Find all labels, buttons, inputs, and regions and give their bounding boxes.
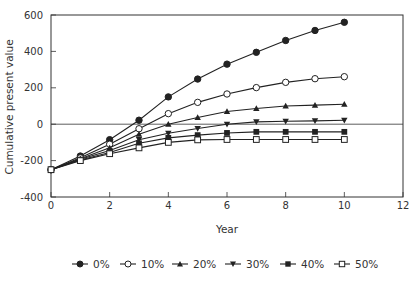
x-tick-label: 6 [224,200,230,211]
open-circle-marker [224,91,230,97]
legend-item-50pct: 50% [334,258,378,270]
legend-item-30pct: 30% [225,258,269,270]
open-circle-marker [125,261,131,267]
series-30pct [48,118,348,173]
open-square-marker [48,167,54,173]
open-square-marker [195,137,201,143]
open-circle-marker [312,76,318,82]
open-square-marker [283,137,289,143]
filled-circle-marker [224,61,230,67]
filled-circle-marker [77,261,83,267]
open-square-marker [341,137,347,143]
legend-label: 0% [93,258,110,270]
open-circle-marker [165,110,171,116]
open-square-marker [77,158,83,164]
x-tick-label: 4 [165,200,171,211]
legend-label: 40% [301,258,324,270]
open-circle-marker [282,79,288,85]
y-axis-label: Cumulative present value [3,39,15,174]
open-square-marker [339,261,344,266]
series-0pct [48,19,348,173]
series-40pct [48,129,347,173]
open-square-marker [253,137,259,143]
plot-frame [51,15,403,197]
legend-item-40pct: 40% [280,258,324,270]
x-tick-label: 0 [48,200,54,211]
x-tick-label: 2 [106,200,112,211]
open-square-marker [107,151,113,157]
filled-square-marker [283,129,289,135]
y-tick-label: 0 [37,119,43,130]
x-tick-label: 8 [282,200,288,211]
legend-item-10pct: 10% [120,258,164,270]
y-tick-label: -200 [20,155,43,166]
x-tick-label: 10 [338,200,351,211]
open-circle-marker [136,126,142,132]
legend-label: 10% [141,258,164,270]
filled-circle-marker [312,27,318,33]
y-tick-label: 400 [24,46,43,57]
filled-circle-marker [282,37,288,43]
filled-square-marker [312,129,318,135]
y-tick-label: -400 [20,192,43,203]
y-tick-label: 600 [24,10,43,21]
legend-label: 50% [355,258,378,270]
legend-item-0pct: 0% [72,258,110,270]
legend: 0%10%20%30%40%50% [72,258,378,270]
filled-circle-marker [194,76,200,82]
npv-chart: 6004002000-200-400 024681012 Cumulative … [0,0,415,282]
open-square-marker [165,140,171,146]
open-square-marker [312,137,318,143]
legend-label: 30% [246,258,269,270]
open-square-marker [136,145,142,151]
filled-square-marker [224,130,230,136]
open-circle-marker [253,84,259,90]
open-circle-marker [194,99,200,105]
filled-circle-marker [341,19,347,25]
filled-square-marker [253,129,259,135]
open-square-marker [224,137,230,143]
x-axis-label: Year [215,223,239,235]
open-circle-marker [341,73,347,79]
x-tick-label: 12 [397,200,410,211]
y-tick-label: 200 [24,82,43,93]
filled-square-marker [341,129,347,135]
data-series [48,19,348,173]
x-axis-ticks: 024681012 [48,192,410,211]
plot-border [51,15,403,197]
filled-circle-marker [165,94,171,100]
filled-circle-marker [136,117,142,123]
legend-label: 20% [193,258,216,270]
filled-circle-marker [253,49,259,55]
filled-square-marker [285,261,290,266]
series-line [51,22,344,169]
legend-item-20pct: 20% [172,258,216,270]
